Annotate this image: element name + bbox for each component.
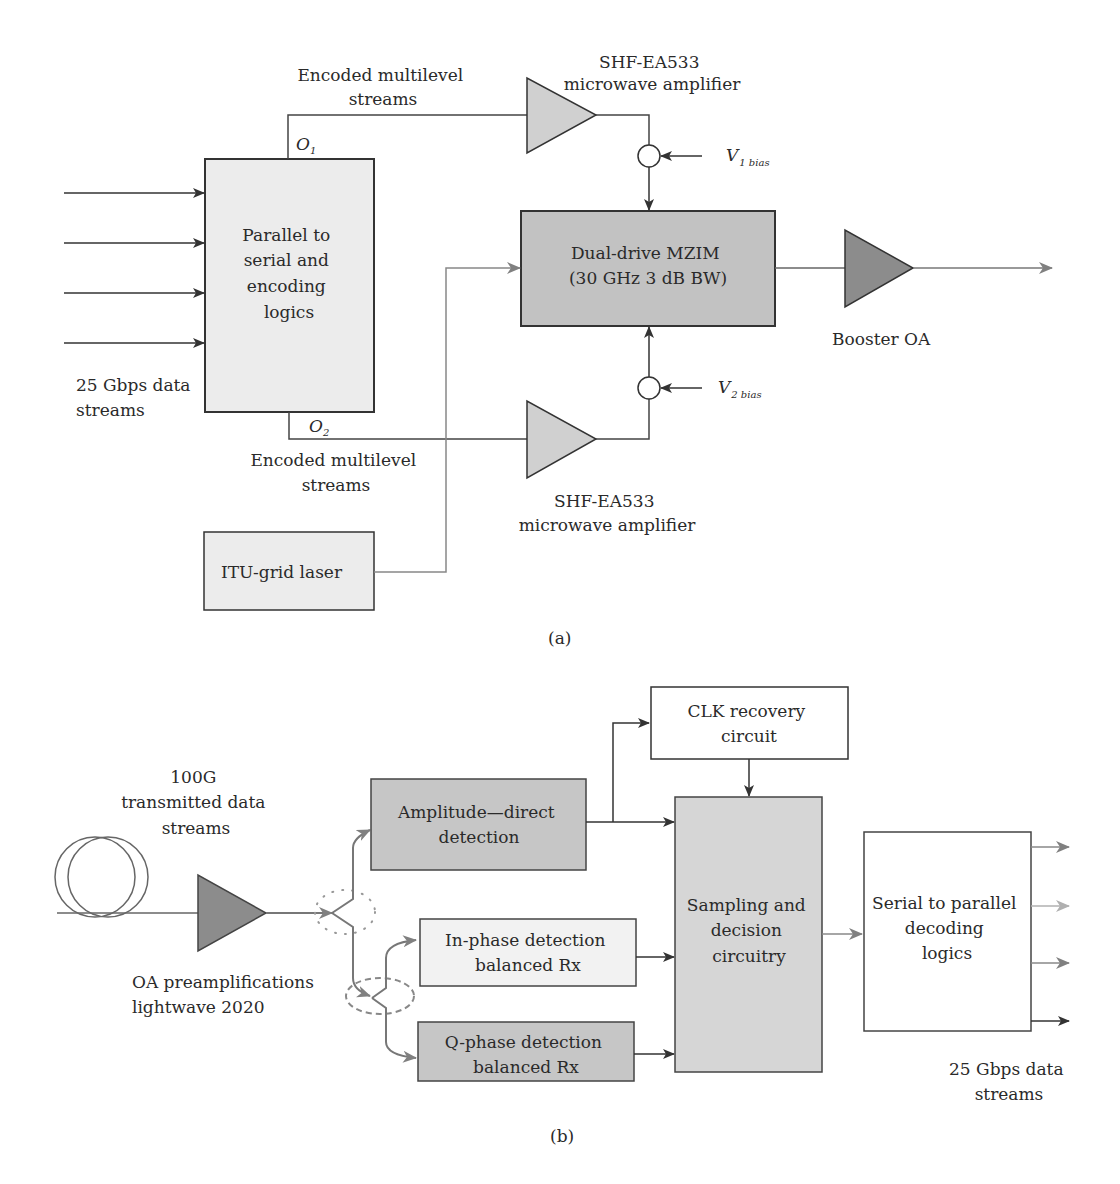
bottom-stream-label: Encoded multilevel streams <box>250 450 421 495</box>
amplitude-to-clk <box>613 723 649 822</box>
o2-label: O2 <box>309 416 329 438</box>
input-label: 25 Gbps data streams <box>76 375 196 420</box>
fiber-label: 100G transmitted data streams <box>121 767 271 838</box>
splitter-2-lower-branch <box>372 998 416 1058</box>
o1-line <box>288 115 527 159</box>
bias-tee-2 <box>638 377 660 399</box>
caption-a: (a) <box>548 628 571 648</box>
panel-a: 25 Gbps data streams Parallel to serial … <box>64 52 1052 648</box>
bottom-amp-label: SHF-EA533 microwave amplifier <box>519 491 697 535</box>
caption-b: (b) <box>550 1126 574 1146</box>
splitter-1-upper-branch <box>332 830 370 913</box>
output-arrows <box>1031 847 1069 1021</box>
amplitude-detection-box <box>371 779 586 870</box>
laser-label: ITU-grid laser <box>221 562 343 582</box>
oa-preamplifier <box>198 875 266 951</box>
booster-label: Booster OA <box>832 329 931 349</box>
splitter-1-lower-branch <box>332 913 370 996</box>
top-amp-label: SHF-EA533 microwave amplifier <box>564 52 742 94</box>
v2-bias-label: V2 bias <box>718 377 762 400</box>
bottom-amp-output <box>596 399 649 439</box>
v1-bias-label: V1 bias <box>726 145 770 168</box>
splitter-2-upper-branch <box>372 940 416 998</box>
top-stream-label: Encoded multilevel streams <box>297 65 468 109</box>
bottom-microwave-amplifier <box>527 401 596 478</box>
input-arrows <box>64 193 204 343</box>
clk-recovery-box <box>651 687 848 759</box>
panel-b: 100G transmitted data streams OA preampl… <box>55 687 1069 1146</box>
fiber-spool-icon <box>55 837 148 917</box>
splitter-2 <box>346 978 414 1014</box>
bias-tee-1 <box>638 145 660 167</box>
output-label: 25 Gbps data streams <box>949 1059 1069 1104</box>
o1-label: O1 <box>296 134 316 156</box>
top-amp-output <box>596 115 649 145</box>
laser-to-mzim <box>374 268 520 572</box>
booster-oa <box>845 230 913 307</box>
diagram-canvas: 25 Gbps data streams Parallel to serial … <box>0 0 1120 1184</box>
preamp-label: OA preamplifications lightwave 2020 <box>132 972 319 1017</box>
